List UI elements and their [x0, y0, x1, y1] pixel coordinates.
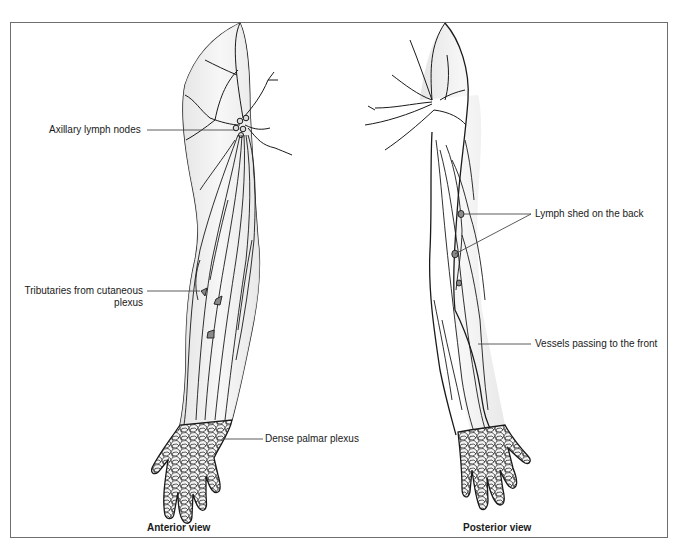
- anterior-arm: [152, 23, 292, 523]
- label-tributaries: Tributaries from cutaneous plexus: [22, 285, 143, 309]
- posterior-hand: [458, 425, 530, 510]
- label-tributaries-line2: plexus: [22, 297, 143, 309]
- posterior-arm: [365, 23, 530, 510]
- anterior-hand: [152, 420, 232, 523]
- label-dense-palmar-plexus: Dense palmar plexus: [265, 433, 359, 445]
- label-tributaries-line1: Tributaries from cutaneous: [22, 285, 143, 297]
- caption-anterior-view: Anterior view: [147, 522, 210, 533]
- label-vessels-passing-front: Vessels passing to the front: [535, 338, 657, 350]
- arm-illustrations: [0, 0, 680, 549]
- lymphatic-drainage-figure: Axillary lymph nodes Tributaries from cu…: [0, 0, 680, 549]
- label-lymph-shed-on-back: Lymph shed on the back: [535, 208, 644, 220]
- label-axillary-lymph-nodes: Axillary lymph nodes: [49, 124, 141, 136]
- caption-posterior-view: Posterior view: [463, 522, 531, 533]
